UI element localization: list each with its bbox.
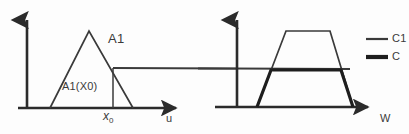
legend-label-c1: C1 <box>392 33 407 44</box>
label-firing-strength: A1(X0) <box>62 81 97 92</box>
label-output-axis: W <box>380 113 390 124</box>
membership-function-c-clipped <box>257 70 353 107</box>
label-antecedent-set: A1 <box>108 32 125 45</box>
legend-label-c: C <box>392 51 400 62</box>
legend <box>366 39 388 57</box>
consequent-panel <box>215 20 368 107</box>
label-input-point-subscript: 0 <box>109 116 113 125</box>
fuzzy-inference-figure: A1 A1(X0) x0 u W C1 C <box>0 0 409 134</box>
label-input-axis: u <box>166 113 172 124</box>
label-input-point: x0 <box>103 110 113 125</box>
figure-canvas <box>0 0 409 134</box>
antecedent-panel <box>18 20 176 108</box>
